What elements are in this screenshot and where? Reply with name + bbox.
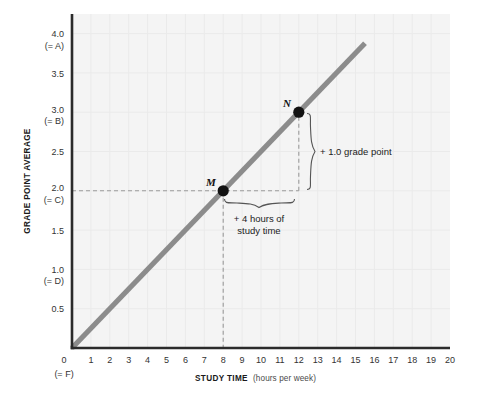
gpa-study-time-chart: M N + 1.0 grade point + 4 hours of study… xyxy=(0,0,483,395)
y-tick-sublabel-5: (= B) xyxy=(44,116,64,126)
x-origin-label: 0 xyxy=(61,355,66,365)
run-annotation-label-line1: + 4 hours of xyxy=(234,213,285,224)
x-tick-label-16: 16 xyxy=(369,355,379,365)
grid-lines xyxy=(72,14,450,348)
y-tick-label-0: 0.5 xyxy=(51,304,64,314)
y-tick-label-7: 4.0 xyxy=(51,29,64,39)
data-point-m-label: M xyxy=(205,176,217,188)
y-tick-sublabel-1: (= D) xyxy=(44,276,64,286)
x-tick-label-8: 8 xyxy=(221,355,226,365)
x-tick-label-20: 20 xyxy=(445,355,455,365)
rise-annotation-label: + 1.0 grade point xyxy=(320,146,392,157)
run-annotation-label-line2: study time xyxy=(237,225,280,236)
y-tick-label-1: 1.0 xyxy=(51,265,64,275)
x-tick-label-10: 10 xyxy=(256,355,266,365)
x-tick-label-4: 4 xyxy=(145,355,150,365)
y-axis-title: GRADE POINT AVERAGE xyxy=(23,128,32,234)
data-point-m xyxy=(218,185,229,196)
x-tick-label-9: 9 xyxy=(240,355,245,365)
x-tick-label-17: 17 xyxy=(388,355,398,365)
y-tick-sublabel-7: (= A) xyxy=(45,41,64,51)
x-tick-label-2: 2 xyxy=(107,355,112,365)
x-tick-label-14: 14 xyxy=(332,355,342,365)
y-tick-label-4: 2.5 xyxy=(51,147,64,157)
x-tick-label-5: 5 xyxy=(164,355,169,365)
y-tick-label-5: 3.0 xyxy=(51,105,64,115)
y-tick-label-3: 2.0 xyxy=(51,183,64,193)
y-tick-label-2: 1.5 xyxy=(51,226,64,236)
x-axis-title: STUDY TIME xyxy=(195,374,248,383)
x-tick-label-3: 3 xyxy=(126,355,131,365)
x-origin-sublabel: (= F) xyxy=(54,369,73,379)
y-tick-label-6: 3.5 xyxy=(51,69,64,79)
x-tick-label-13: 13 xyxy=(313,355,323,365)
x-tick-label-11: 11 xyxy=(275,355,284,365)
y-tick-sublabel-3: (= C) xyxy=(44,195,64,205)
x-tick-label-18: 18 xyxy=(407,355,417,365)
x-tick-label-1: 1 xyxy=(88,355,93,365)
data-point-n xyxy=(293,107,304,118)
x-tick-label-12: 12 xyxy=(294,355,304,365)
x-tick-label-15: 15 xyxy=(350,355,360,365)
chart-svg: M N + 1.0 grade point + 4 hours of study… xyxy=(0,0,483,395)
x-tick-label-7: 7 xyxy=(202,355,207,365)
x-axis-title-sub: (hours per week) xyxy=(253,374,316,383)
x-tick-label-19: 19 xyxy=(426,355,436,365)
data-point-n-label: N xyxy=(282,97,292,109)
x-tick-label-6: 6 xyxy=(183,355,188,365)
